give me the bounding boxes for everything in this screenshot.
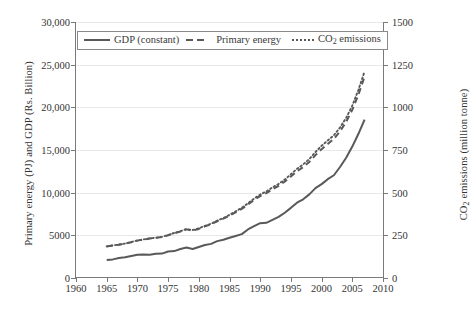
y-ticklabel-left: 30,000 — [41, 17, 70, 28]
y-tick-right — [383, 65, 388, 66]
legend-label-primary-energy: Primary energy — [216, 35, 281, 46]
y-ticklabel-right: 1500 — [392, 17, 413, 28]
y-ticklabel-left: 0 — [65, 273, 70, 284]
y-ticklabel-left: 15,000 — [41, 145, 70, 156]
x-tick — [383, 277, 384, 282]
legend-label-co2: CO2 emissions — [318, 34, 381, 46]
y-ticklabel-right: 0 — [392, 273, 397, 284]
y-ticklabel-right: 1000 — [392, 102, 413, 113]
y-axis-right-ticklabels: 0250500750100012501500 — [392, 22, 432, 278]
y-tick-right — [383, 107, 388, 108]
series-line-primary-energy — [107, 77, 365, 247]
y-ticklabel-right: 500 — [392, 187, 408, 198]
x-ticklabel: 2005 — [342, 283, 363, 294]
series-curves — [76, 22, 383, 278]
x-ticklabel: 1975 — [158, 283, 179, 294]
legend-item-gdp: GDP (constant) — [84, 35, 179, 46]
y-ticklabel-right: 1250 — [392, 59, 413, 70]
y-ticklabel-left: 5000 — [49, 230, 70, 241]
legend-swatch-solid-line — [84, 36, 110, 44]
x-ticklabel: 1995 — [280, 283, 301, 294]
y-axis-right-title: CO2 emissions (million tonne) — [458, 35, 471, 275]
legend-label-gdp: GDP (constant) — [114, 35, 179, 46]
chart-legend: GDP (constant) Primary energy CO2 emissi… — [77, 31, 388, 50]
x-ticklabel: 2000 — [311, 283, 332, 294]
x-ticklabel: 1985 — [219, 283, 240, 294]
y-ticklabel-left: 20,000 — [41, 102, 70, 113]
x-ticklabel: 1980 — [188, 283, 209, 294]
y-ticklabel-right: 250 — [392, 230, 408, 241]
y-ticklabel-right: 750 — [392, 145, 408, 156]
plot-area — [76, 22, 383, 277]
x-axis-ticklabels: 1960196519701975198019851990199520002005… — [76, 283, 383, 299]
x-ticklabel: 2010 — [373, 283, 394, 294]
y-ticklabel-left: 25,000 — [41, 59, 70, 70]
legend-swatch-dotted-line — [288, 36, 314, 44]
x-ticklabel: 1965 — [96, 283, 117, 294]
legend-item-primary-energy: Primary energy — [186, 35, 281, 46]
legend-item-co2: CO2 emissions — [288, 34, 381, 46]
legend-swatch-dashed-line — [186, 36, 212, 44]
x-ticklabel: 1960 — [66, 283, 87, 294]
y-tick-right — [383, 193, 388, 194]
x-ticklabel: 1970 — [127, 283, 148, 294]
y-ticklabel-left: 10,000 — [41, 187, 70, 198]
y-axis-left-ticklabels: 0500010,00015,00020,00025,00030,000 — [30, 22, 70, 278]
y-tick-right — [383, 150, 388, 151]
y-tick-right — [383, 22, 388, 23]
x-ticklabel: 1990 — [250, 283, 271, 294]
series-line-co2-emissions — [107, 71, 365, 246]
y-tick-right — [383, 235, 388, 236]
